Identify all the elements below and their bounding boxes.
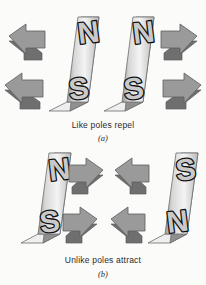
pole-letter-N: N xyxy=(76,15,102,50)
panel-a-caption: Like poles repel xyxy=(0,120,206,130)
panel-b-right-magnet: S N xyxy=(148,152,198,243)
pole-letter-S: S xyxy=(122,71,146,106)
panel-b-arrow-top-right xyxy=(115,158,149,194)
panel-b-arrow-bottom-right xyxy=(111,207,145,243)
panel-b-caption: Unlike poles attract xyxy=(0,255,206,265)
pole-letter-S: S xyxy=(174,152,198,187)
panel-a-right-magnet: N S xyxy=(104,15,156,111)
panel-a-arrow-bottom-right xyxy=(163,73,201,109)
panel-b-arrow-bottom-left xyxy=(63,207,97,243)
panel-a-arrow-top-left xyxy=(9,24,45,60)
pole-letter-N: N xyxy=(165,204,191,239)
pole-letter-N: N xyxy=(131,15,157,50)
panel-b: N S S N xyxy=(0,143,206,285)
panel-a-label: (a) xyxy=(0,133,206,143)
panel-a-illustration: N S N S xyxy=(0,0,206,120)
panel-a-arrow-top-right xyxy=(161,24,197,60)
pole-letter-S: S xyxy=(38,204,62,239)
pole-letter-S: S xyxy=(67,71,91,106)
pole-letter-N: N xyxy=(47,152,73,187)
panel-b-label: (b) xyxy=(0,269,206,279)
panel-a-left-magnet: N S xyxy=(49,15,101,111)
panel-a-arrow-bottom-left xyxy=(5,73,43,109)
magnet-figure: N S N S xyxy=(0,0,206,285)
panel-b-illustration: N S S N xyxy=(0,143,206,255)
panel-a: N S N S xyxy=(0,0,206,145)
panel-b-arrow-top-left xyxy=(69,158,103,194)
